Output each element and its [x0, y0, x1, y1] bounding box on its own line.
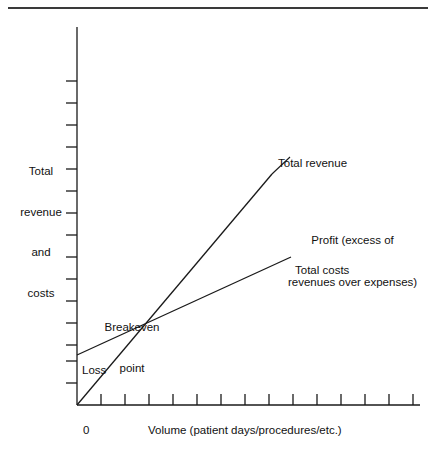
annotation-loss: Loss [82, 364, 106, 378]
annotation-profit-line: Profit (excess of [288, 233, 417, 247]
annotation-breakeven-line: point [99, 362, 165, 376]
y-axis-label-line: costs [12, 287, 70, 301]
annotation-breakeven-line: Breakeven [99, 321, 165, 335]
annotation-profit: Profit (excess of revenues over expenses… [288, 205, 417, 317]
annotation-total-costs: Total costs [295, 264, 349, 278]
y-axis-label-line: revenue [12, 206, 70, 220]
x-axis-label: Volume (patient days/procedures/etc.) [148, 424, 342, 438]
breakeven-analysis-figure: Total revenue and costs Volume (patient … [0, 0, 436, 453]
annotation-total-revenue: Total revenue [278, 157, 347, 171]
y-axis-label: Total revenue and costs [12, 138, 70, 327]
y-axis-label-line: and [12, 246, 70, 260]
origin-label: 0 [83, 424, 89, 438]
annotation-breakeven-point: Breakeven point [99, 294, 165, 402]
y-axis-label-line: Total [12, 165, 70, 179]
